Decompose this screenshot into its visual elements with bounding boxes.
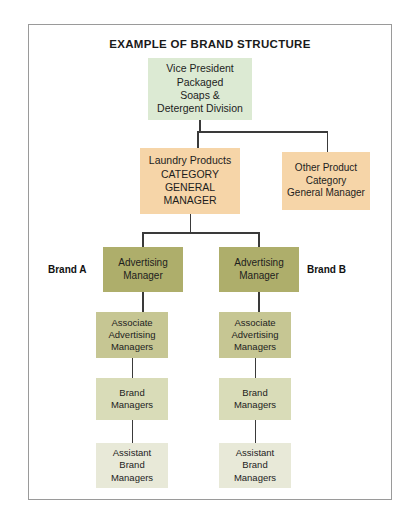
node-laundry-products-category-general-manager[interactable]: Laundry Products CATEGORY GENERAL MANAGE… <box>140 148 240 214</box>
node-vice-president-line-1: Vice President <box>166 62 234 75</box>
node-associate-advertising-managers-brand-a[interactable]: Associate Advertising Managers <box>96 312 168 358</box>
diagram-title: EXAMPLE OF BRAND STRUCTURE <box>28 38 392 50</box>
node-assistant-brand-managers-b-line-1: Assistant <box>236 447 275 459</box>
node-other-product-line-3: General Manager <box>287 187 365 200</box>
node-brand-managers-a-line-1: Brand <box>119 387 144 399</box>
node-laundry-products-line-2: CATEGORY <box>161 168 219 181</box>
node-other-product-line-2: Category <box>306 175 347 188</box>
node-advertising-manager-a-line-1: Advertising <box>118 257 167 270</box>
node-other-product-line-1: Other Product <box>295 162 357 175</box>
node-vice-president-line-4: Detergent Division <box>157 102 243 115</box>
node-brand-managers-brand-b[interactable]: Brand Managers <box>219 378 291 420</box>
node-advertising-manager-brand-b[interactable]: Advertising Manager <box>219 247 299 292</box>
node-advertising-manager-b-line-2: Manager <box>239 270 278 283</box>
node-brand-managers-brand-a[interactable]: Brand Managers <box>96 378 168 420</box>
node-brand-managers-a-line-2: Managers <box>111 399 153 411</box>
node-other-product-category-general-manager[interactable]: Other Product Category General Manager <box>282 152 370 210</box>
node-assistant-brand-managers-a-line-3: Managers <box>111 472 153 484</box>
node-advertising-manager-b-line-1: Advertising <box>234 257 283 270</box>
connector-adv-a-to-assoc-a <box>142 292 144 312</box>
node-brand-managers-b-line-2: Managers <box>234 399 276 411</box>
connector-brand-a-to-asst-a <box>132 420 134 443</box>
node-associate-advertising-managers-a-line-1: Associate <box>111 317 152 329</box>
node-associate-advertising-managers-brand-b[interactable]: Associate Advertising Managers <box>219 312 291 358</box>
node-laundry-products-line-1: Laundry Products <box>149 154 231 167</box>
node-brand-managers-b-line-1: Brand <box>242 387 267 399</box>
connector-laundry-stem <box>190 214 192 233</box>
connector-to-advertising-a <box>142 232 144 247</box>
node-assistant-brand-managers-b-line-3: Managers <box>234 472 276 484</box>
connector-assoc-a-to-brand-a <box>132 358 134 378</box>
node-assistant-brand-managers-a-line-1: Assistant <box>113 447 152 459</box>
node-vice-president-line-3: Soaps & <box>180 89 220 102</box>
connector-tier2-bus <box>197 131 328 133</box>
node-associate-advertising-managers-a-line-3: Managers <box>111 341 153 353</box>
org-chart-page: EXAMPLE OF BRAND STRUCTURE Vice Presiden… <box>0 0 414 531</box>
node-associate-advertising-managers-b-line-1: Associate <box>234 317 275 329</box>
node-laundry-products-line-4: MANAGER <box>163 194 216 207</box>
node-advertising-manager-a-line-2: Manager <box>123 270 162 283</box>
node-assistant-brand-managers-brand-b[interactable]: Assistant Brand Managers <box>219 443 291 488</box>
node-assistant-brand-managers-brand-a[interactable]: Assistant Brand Managers <box>96 443 168 488</box>
connector-tier3-bus <box>142 232 259 234</box>
node-advertising-manager-brand-a[interactable]: Advertising Manager <box>103 247 183 292</box>
node-assistant-brand-managers-b-line-2: Brand <box>242 459 267 471</box>
connector-brand-b-to-asst-b <box>255 420 257 443</box>
connector-to-advertising-b <box>258 232 260 247</box>
label-brand-a: Brand A <box>48 264 87 275</box>
node-laundry-products-line-3: GENERAL <box>165 181 215 194</box>
node-vice-president-line-2: Packaged <box>177 76 224 89</box>
connector-to-other-product <box>327 131 329 152</box>
node-vice-president[interactable]: Vice President Packaged Soaps & Detergen… <box>148 58 252 120</box>
connector-assoc-b-to-brand-b <box>255 358 257 378</box>
node-associate-advertising-managers-b-line-3: Managers <box>234 341 276 353</box>
label-brand-b: Brand B <box>307 264 346 275</box>
node-associate-advertising-managers-a-line-2: Advertising <box>109 329 156 341</box>
connector-to-laundry <box>197 131 199 148</box>
connector-adv-b-to-assoc-b <box>258 292 260 312</box>
node-assistant-brand-managers-a-line-2: Brand <box>119 459 144 471</box>
node-associate-advertising-managers-b-line-2: Advertising <box>232 329 279 341</box>
